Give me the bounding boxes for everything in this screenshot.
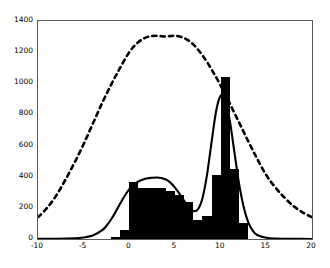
x-axis-tick-label: -10 bbox=[25, 242, 49, 250]
plot-area bbox=[37, 20, 313, 240]
y-axis-tick-label: 800 bbox=[1, 109, 33, 117]
y-axis-tick-label: 200 bbox=[1, 203, 33, 211]
chart-figure: 0200400600800100012001400 -10-505101520 bbox=[0, 0, 330, 268]
overall-gaussian-dashed-curve bbox=[38, 36, 312, 217]
y-axis-tick-label: 600 bbox=[1, 141, 33, 149]
plot-canvas bbox=[38, 21, 312, 239]
y-axis-tick-label: 1400 bbox=[1, 16, 33, 24]
x-axis-tick-label: 0 bbox=[116, 242, 140, 250]
y-axis-tick-label: 1200 bbox=[1, 47, 33, 55]
x-axis-tick-label: 5 bbox=[162, 242, 186, 250]
x-axis-tick-label: 20 bbox=[299, 242, 323, 250]
x-axis-tick-label: -5 bbox=[71, 242, 95, 250]
y-axis-tick-label: 400 bbox=[1, 172, 33, 180]
curve-overlay bbox=[38, 21, 312, 239]
x-axis-tick-label: 15 bbox=[253, 242, 277, 250]
bimodal-fit-solid-curve bbox=[38, 95, 312, 239]
y-axis-tick-label: 0 bbox=[1, 234, 33, 242]
y-axis-tick-label: 1000 bbox=[1, 78, 33, 86]
x-axis-tick-label: 10 bbox=[208, 242, 232, 250]
